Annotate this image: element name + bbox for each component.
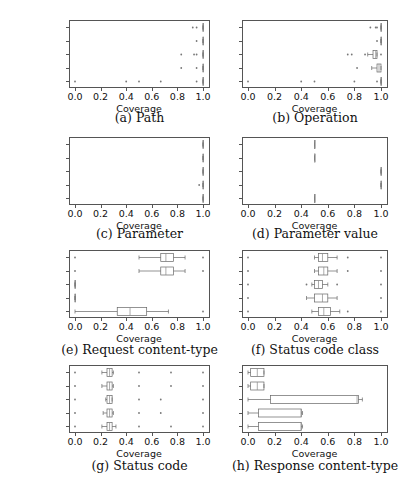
box-baseline [248,369,264,377]
box-bBOXRT [248,396,362,404]
box-RESTler [248,423,303,431]
box-uTest [248,382,264,390]
boxplot-glyphs [0,0,404,490]
box-RestTestGen [248,409,303,417]
